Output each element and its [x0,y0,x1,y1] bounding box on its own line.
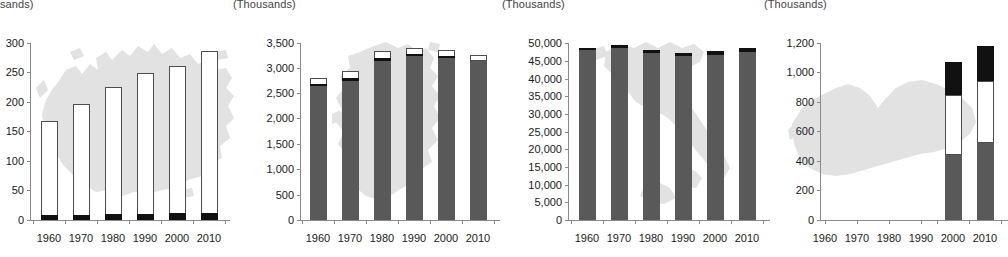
y-tick-label: 50 [0,184,24,196]
unit-label: (Thousands) [764,0,827,10]
y-tick [27,161,31,162]
y-tick [565,149,569,150]
y-tick-label: 600 [772,125,814,137]
x-tick-label: 2010 [722,232,772,244]
chart-panel-latvia: (Thousands) 0 200 400 6 [772,0,1008,257]
bar-segment-black [137,214,154,220]
bar-1990[interactable] [675,53,692,220]
bar-segment-white [41,121,58,220]
bar-2000[interactable] [169,66,186,220]
y-tick [297,144,301,145]
y-tick-label: 3,000 [252,62,294,74]
x-tick [65,220,66,224]
y-tick-label: 1,500 [252,138,294,150]
x-tick [1001,220,1002,224]
x-tick [129,220,130,224]
y-tick-label: 800 [772,96,814,108]
y-tick-label: 0 [0,214,24,226]
y-tick [297,43,301,44]
y-tick-label: 500 [252,189,294,201]
bar-1960[interactable] [41,121,58,220]
unit-label: (Thousands) [233,0,296,10]
bar-1970[interactable] [342,71,359,220]
bar-2000[interactable] [945,62,962,220]
bar-segment-white [73,104,90,220]
x-tick [462,220,463,224]
y-tick-label: 50,000 [510,37,562,49]
bar-1970[interactable] [611,45,628,220]
y-tick [565,43,569,44]
y-tick-label: 3,500 [252,37,294,49]
bar-2000[interactable] [438,50,455,220]
bar-2010[interactable] [977,46,994,220]
bar-segment-black [945,62,962,95]
y-tick-label: 10,000 [510,179,562,191]
y-tick-label: 300 [0,37,24,49]
x-tick [921,220,922,224]
bar-2000[interactable] [707,51,724,220]
y-tick [565,79,569,80]
x-tick [366,220,367,224]
figure-canvas: sands) [0,0,1008,257]
y-tick [565,167,569,168]
bar-segment-gray [310,86,327,220]
bar-1960[interactable] [310,78,327,220]
bar-segment-gray [643,53,660,220]
y-tick-label: 2,000 [252,112,294,124]
bar-2010[interactable] [470,55,487,220]
bar-segment-black [105,214,122,220]
bar-1960[interactable] [579,48,596,220]
x-tick [33,220,34,224]
x-tick [937,220,938,224]
bar-1970[interactable] [73,104,90,220]
y-tick-label: 0 [772,214,814,226]
x-tick [857,220,858,224]
bar-1980[interactable] [105,87,122,220]
x-axis-line [30,220,230,221]
bar-1990[interactable] [137,73,154,220]
bar-2010[interactable] [739,48,756,220]
y-tick [565,96,569,97]
x-tick [603,220,604,224]
y-tick [27,220,31,221]
y-tick [565,185,569,186]
bar-segment-white [945,95,962,155]
bar-segment-gray [342,81,359,220]
chart-panel-italy: (Thousands) [510,0,772,257]
x-axis-line [820,220,1008,221]
bar-1980[interactable] [374,51,391,220]
x-tick [494,220,495,224]
plot-area-latvia: 0 200 400 600 800 1,000 1,200 [772,30,1008,230]
x-tick [398,220,399,224]
y-tick [817,131,821,132]
bar-2010[interactable] [201,51,218,220]
bar-1990[interactable] [406,48,423,220]
x-tick [635,220,636,224]
y-tick [297,220,301,221]
bar-segment-black [73,215,90,220]
bar-segment-white [201,51,218,220]
x-tick [731,220,732,224]
unit-label: (Thousands) [502,0,565,10]
y-tick-label: 45,000 [510,55,562,67]
x-tick [667,220,668,224]
bar-segment-black [41,215,58,220]
bar-segment-gray [438,58,455,220]
y-tick-label: 150 [0,125,24,137]
plot-area-ireland: 0 500 1,000 1,500 2,000 2,500 3,000 3,50… [252,30,510,230]
bar-segment-gray [945,155,962,220]
x-tick [825,220,826,224]
x-tick [763,220,764,224]
y-tick-label: 5,000 [510,196,562,208]
bar-1980[interactable] [643,50,660,220]
y-tick-label: 30,000 [510,108,562,120]
x-axis-line [568,220,770,221]
bar-segment-gray [675,56,692,220]
x-tick [571,220,572,224]
y-tick-label: 40,000 [510,73,562,85]
bar-segment-gray [739,52,756,220]
y-tick [297,169,301,170]
x-tick [889,220,890,224]
y-tick [817,102,821,103]
y-tick-label: 200 [772,184,814,196]
